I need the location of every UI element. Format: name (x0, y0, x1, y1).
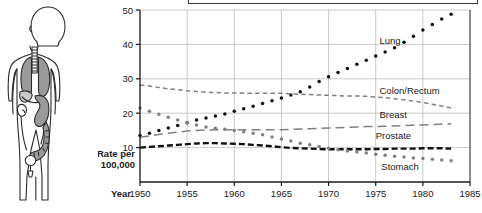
data-point-lung (223, 112, 227, 116)
data-point-lung (440, 17, 444, 21)
data-point-lung (176, 124, 180, 128)
series-label-colon-rectum: Colon/Rectum (379, 85, 439, 96)
data-point-lung (280, 96, 284, 100)
y-tick-label: 20 (122, 108, 133, 119)
data-point-stomach (270, 135, 274, 139)
data-point-lung (374, 54, 378, 58)
data-point-stomach (346, 149, 350, 153)
data-point-stomach (167, 116, 171, 120)
data-point-stomach (299, 141, 303, 145)
x-tick-label: 1985 (459, 188, 480, 199)
x-tick-label: 1960 (224, 188, 245, 199)
data-point-lung (148, 131, 152, 135)
data-point-stomach (393, 154, 397, 158)
y-axis-title-line1: Rate per (98, 148, 135, 159)
data-point-stomach (223, 128, 227, 132)
series-label-prostate: Prostate (376, 130, 411, 141)
data-point-stomach (336, 148, 340, 152)
series-label-stomach: Stomach (381, 161, 419, 172)
data-point-stomach (242, 130, 246, 134)
data-point-lung (270, 99, 274, 103)
data-point-lung (393, 46, 397, 50)
data-point-stomach (148, 109, 152, 113)
data-point-stomach (421, 157, 425, 161)
data-point-stomach (157, 112, 161, 116)
data-point-lung (233, 109, 237, 113)
data-point-stomach (355, 150, 359, 154)
x-tick-label: 1965 (271, 188, 292, 199)
data-point-stomach (431, 158, 435, 162)
data-point-lung (261, 102, 265, 106)
data-point-stomach (308, 143, 312, 147)
trachea (32, 47, 37, 73)
data-point-stomach (449, 159, 453, 163)
data-point-lung (251, 105, 255, 109)
data-point-stomach (327, 147, 331, 151)
data-point-stomach (289, 139, 293, 143)
data-point-lung (355, 63, 359, 67)
plot-background (140, 10, 470, 182)
data-point-lung (214, 114, 218, 118)
x-tick-label: 1975 (365, 188, 386, 199)
series-label-lung: Lung (379, 35, 400, 46)
data-point-lung (308, 85, 312, 89)
x-tick-label: 1955 (177, 188, 198, 199)
data-point-stomach (195, 123, 199, 127)
data-point-stomach (176, 118, 180, 122)
data-point-lung (402, 41, 406, 45)
y-tick-label: 40 (122, 39, 133, 50)
data-point-lung (299, 90, 303, 94)
bladder (25, 156, 35, 166)
axis-titles: Rate per100,000Year (98, 148, 135, 199)
data-point-lung (204, 116, 208, 120)
data-point-stomach (374, 152, 378, 156)
data-point-lung (421, 28, 425, 32)
cancer-death-rate-chart: 1020304050195019551960196519701975198019… (98, 0, 482, 213)
data-point-lung (327, 75, 331, 79)
data-point-lung (431, 23, 435, 27)
data-point-lung (365, 58, 369, 62)
y-axis-title-line2: 100,000 (101, 159, 135, 170)
data-point-lung (449, 12, 453, 16)
data-point-lung (412, 34, 416, 38)
data-point-stomach (214, 127, 218, 131)
data-point-stomach (204, 125, 208, 128)
data-point-stomach (261, 133, 265, 137)
x-tick-label: 1950 (129, 188, 150, 199)
x-axis-title: Year (111, 188, 131, 199)
series-label-breast: Breast (379, 109, 407, 120)
data-point-stomach (412, 156, 416, 160)
data-point-stomach (440, 158, 444, 162)
y-tick-label: 30 (122, 73, 133, 84)
x-tick-label: 1970 (318, 188, 339, 199)
data-point-stomach (402, 155, 406, 159)
figure-root: 1020304050195019551960196519701975198019… (0, 0, 482, 213)
data-point-stomach (233, 129, 237, 133)
data-point-lung (242, 107, 246, 111)
data-point-stomach (317, 145, 321, 149)
x-tick-label: 1980 (412, 188, 433, 199)
data-point-lung (157, 129, 161, 133)
data-point-lung (317, 80, 321, 84)
data-point-lung (195, 118, 199, 122)
kidney (17, 104, 26, 116)
data-point-stomach (251, 131, 255, 135)
data-point-stomach (383, 153, 387, 157)
data-point-lung (346, 67, 350, 71)
data-point-stomach (365, 151, 369, 155)
data-point-lung (336, 71, 340, 75)
data-point-lung (167, 126, 171, 129)
anatomy-illustration (0, 0, 98, 213)
data-point-stomach (280, 137, 284, 141)
data-point-lung (383, 50, 387, 54)
data-point-stomach (185, 121, 189, 125)
y-tick-label: 50 (122, 5, 133, 16)
head-outline (30, 7, 65, 46)
